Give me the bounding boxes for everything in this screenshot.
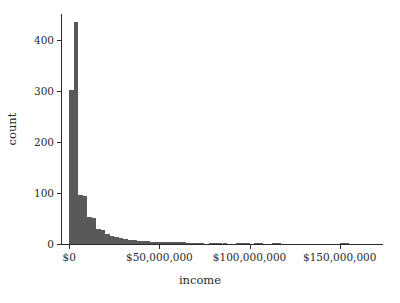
x-axis-tick-mark — [69, 245, 70, 249]
x-axis-tick-label: $150,000,000 — [303, 252, 376, 263]
x-axis-tick-mark — [250, 245, 251, 249]
y-axis-line — [61, 14, 62, 244]
histogram-chart: count 0100200300400 $0$50,000,000$100,00… — [0, 0, 400, 303]
y-axis-tick-mark — [57, 142, 61, 143]
y-axis-tick-label: 400 — [34, 35, 54, 46]
x-axis-tick-mark — [159, 245, 160, 249]
bars-layer — [62, 14, 383, 244]
y-axis-tick-label: 0 — [47, 239, 54, 250]
y-axis-tick-mark — [57, 40, 61, 41]
y-axis-tick-label: 200 — [34, 137, 54, 148]
x-axis-title: income — [0, 273, 400, 287]
y-axis-tick-mark — [57, 193, 61, 194]
x-axis-tick-label: $100,000,000 — [213, 252, 286, 263]
y-axis-tick-label: 300 — [34, 86, 54, 97]
x-axis-tick-label: $50,000,000 — [126, 252, 193, 263]
plot-panel — [62, 14, 383, 244]
y-axis-tick-mark — [57, 244, 61, 245]
y-axis-title: count — [5, 113, 19, 146]
y-axis-tick-mark — [57, 91, 61, 92]
y-axis-tick-label: 100 — [34, 188, 54, 199]
x-axis-tick-label: $0 — [63, 252, 76, 263]
x-axis-line — [61, 244, 383, 245]
y-axis-title-container: count — [0, 0, 24, 258]
x-axis-tick-mark — [340, 245, 341, 249]
